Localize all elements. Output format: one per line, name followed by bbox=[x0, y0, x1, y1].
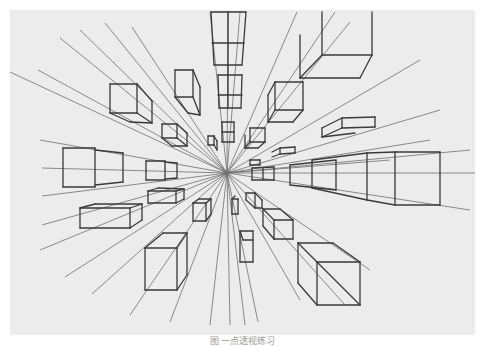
box-edge bbox=[280, 209, 293, 220]
box-right-flat-slab bbox=[322, 117, 375, 137]
perspective-ray bbox=[227, 12, 240, 173]
box-edge bbox=[241, 75, 242, 108]
box-edge bbox=[165, 178, 177, 179]
box-edge bbox=[130, 220, 142, 228]
box-edge bbox=[280, 147, 295, 148]
perspective-ray bbox=[227, 12, 297, 173]
box-edge bbox=[165, 162, 177, 163]
box-top-center-tall bbox=[211, 12, 246, 108]
perspective-ray bbox=[227, 173, 300, 300]
box-left-small-wall bbox=[146, 161, 177, 180]
perspective-drawing bbox=[10, 10, 475, 335]
perspective-ray bbox=[227, 12, 335, 173]
box-top-right-large bbox=[300, 12, 372, 78]
box-edge bbox=[242, 12, 246, 65]
box-edge bbox=[268, 82, 275, 95]
figure-caption: 图 一点透视练习 bbox=[0, 336, 485, 346]
box-edge bbox=[322, 118, 342, 128]
perspective-ray bbox=[40, 140, 227, 173]
box-edge bbox=[298, 283, 317, 305]
box-lower-left-box bbox=[145, 233, 187, 290]
perspective-ray bbox=[227, 22, 350, 173]
box-edge bbox=[188, 113, 200, 115]
box-edge bbox=[218, 75, 219, 108]
box-edge bbox=[293, 110, 303, 122]
perspective-ray bbox=[130, 173, 227, 315]
box-edge bbox=[145, 233, 163, 248]
box-edge bbox=[290, 160, 336, 165]
box-lower-right-mid-box bbox=[263, 209, 293, 239]
box-edge bbox=[130, 122, 152, 123]
box-left-tiny-cube bbox=[208, 136, 217, 150]
box-edge bbox=[360, 55, 372, 78]
box-right-small-slab bbox=[272, 147, 295, 157]
box-edge bbox=[137, 84, 152, 101]
box-edge bbox=[263, 209, 274, 220]
perspective-ray bbox=[42, 168, 227, 173]
perspective-ray bbox=[105, 23, 227, 173]
box-edge bbox=[175, 97, 188, 113]
box-edge bbox=[317, 262, 360, 305]
box-edge bbox=[333, 243, 360, 262]
perspective-ray bbox=[227, 60, 420, 173]
box-edge bbox=[300, 55, 322, 78]
box-edge bbox=[342, 117, 375, 118]
box-edge bbox=[342, 127, 375, 128]
box-edge bbox=[177, 124, 187, 133]
box-edge bbox=[258, 142, 265, 148]
box-right-tiny-slab bbox=[250, 160, 260, 165]
box-edge bbox=[298, 243, 317, 262]
perspective-ray bbox=[65, 173, 227, 277]
box-edge bbox=[177, 233, 187, 248]
box-edge bbox=[137, 113, 152, 123]
box-edge bbox=[312, 153, 367, 160]
one-point-perspective-diagram bbox=[10, 10, 475, 335]
box-left-flat-slab bbox=[80, 204, 142, 228]
box-edge bbox=[268, 110, 275, 122]
box-edge bbox=[263, 226, 274, 239]
box-edge bbox=[272, 154, 280, 157]
box-top-center-mid bbox=[218, 75, 242, 108]
box-left-large-wall bbox=[63, 148, 123, 187]
box-lower-right-large-box bbox=[298, 243, 360, 305]
box-upper-left-cube bbox=[110, 84, 152, 123]
perspective-ray bbox=[60, 38, 227, 173]
box-edge bbox=[211, 12, 214, 65]
box-edge bbox=[367, 200, 395, 205]
box-edge bbox=[158, 188, 184, 189]
box-left-small-cube bbox=[162, 124, 187, 146]
box-edge bbox=[272, 148, 280, 152]
box-edge bbox=[193, 70, 200, 87]
box-upper-left-tall-box bbox=[175, 70, 200, 115]
box-edge bbox=[95, 182, 123, 185]
box-edge bbox=[246, 200, 255, 208]
box-edge bbox=[367, 152, 395, 153]
perspective-ray bbox=[80, 30, 227, 173]
box-edge bbox=[193, 97, 200, 115]
